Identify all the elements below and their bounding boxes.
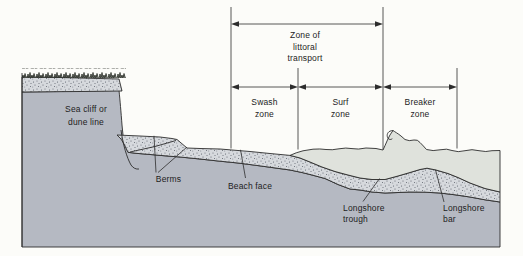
label-beach-face: Beach face [228, 181, 272, 191]
svg-text:Swash: Swash [251, 97, 277, 107]
label-berms: Berms [156, 174, 181, 184]
svg-text:Zone of: Zone of [290, 30, 320, 40]
label-surf-zone: Surf zone [331, 97, 350, 119]
svg-text:zone: zone [410, 109, 429, 119]
surf-zone-arrow [298, 84, 383, 89]
svg-text:Longshore: Longshore [443, 203, 485, 213]
svg-text:Surf: Surf [332, 97, 349, 107]
cliff-vegetation [22, 69, 126, 79]
cliff-cap-sand [22, 77, 122, 92]
svg-text:zone: zone [331, 109, 350, 119]
svg-text:dune line: dune line [68, 117, 104, 127]
svg-text:bar: bar [443, 214, 456, 224]
littoral-transport-arrow [231, 21, 383, 26]
breaker-zone-arrow [383, 84, 457, 89]
svg-text:Longshore: Longshore [343, 203, 385, 213]
label-breaker-zone: Breaker zone [405, 97, 436, 119]
label-zone-of-littoral-transport: Zone of littoral transport [288, 30, 323, 63]
svg-text:Sea cliff or: Sea cliff or [65, 104, 107, 114]
swash-zone-arrow [231, 84, 298, 89]
svg-text:littoral: littoral [293, 42, 317, 52]
coastal-zones-diagram: Sea cliff or dune line Zone of littoral … [0, 0, 523, 256]
svg-text:Breaker: Breaker [405, 97, 436, 107]
svg-text:transport: transport [288, 53, 323, 63]
svg-text:trough: trough [343, 214, 368, 224]
svg-text:zone: zone [255, 109, 274, 119]
label-swash-zone: Swash zone [251, 97, 277, 119]
